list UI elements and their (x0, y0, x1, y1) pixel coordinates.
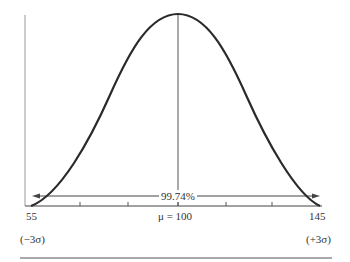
plus-3-sigma-label: (+3σ) (306, 233, 331, 245)
x-ticks (80, 202, 272, 206)
minus-3-sigma-label: (−3σ) (20, 233, 45, 245)
mean-label: μ = 100 (158, 210, 192, 222)
right-value-label: 145 (309, 210, 326, 222)
normal-curve-diagram (0, 0, 350, 262)
bell-curve (31, 14, 320, 206)
left-value-label: 55 (26, 210, 37, 222)
coverage-label: 99.74% (159, 190, 197, 202)
